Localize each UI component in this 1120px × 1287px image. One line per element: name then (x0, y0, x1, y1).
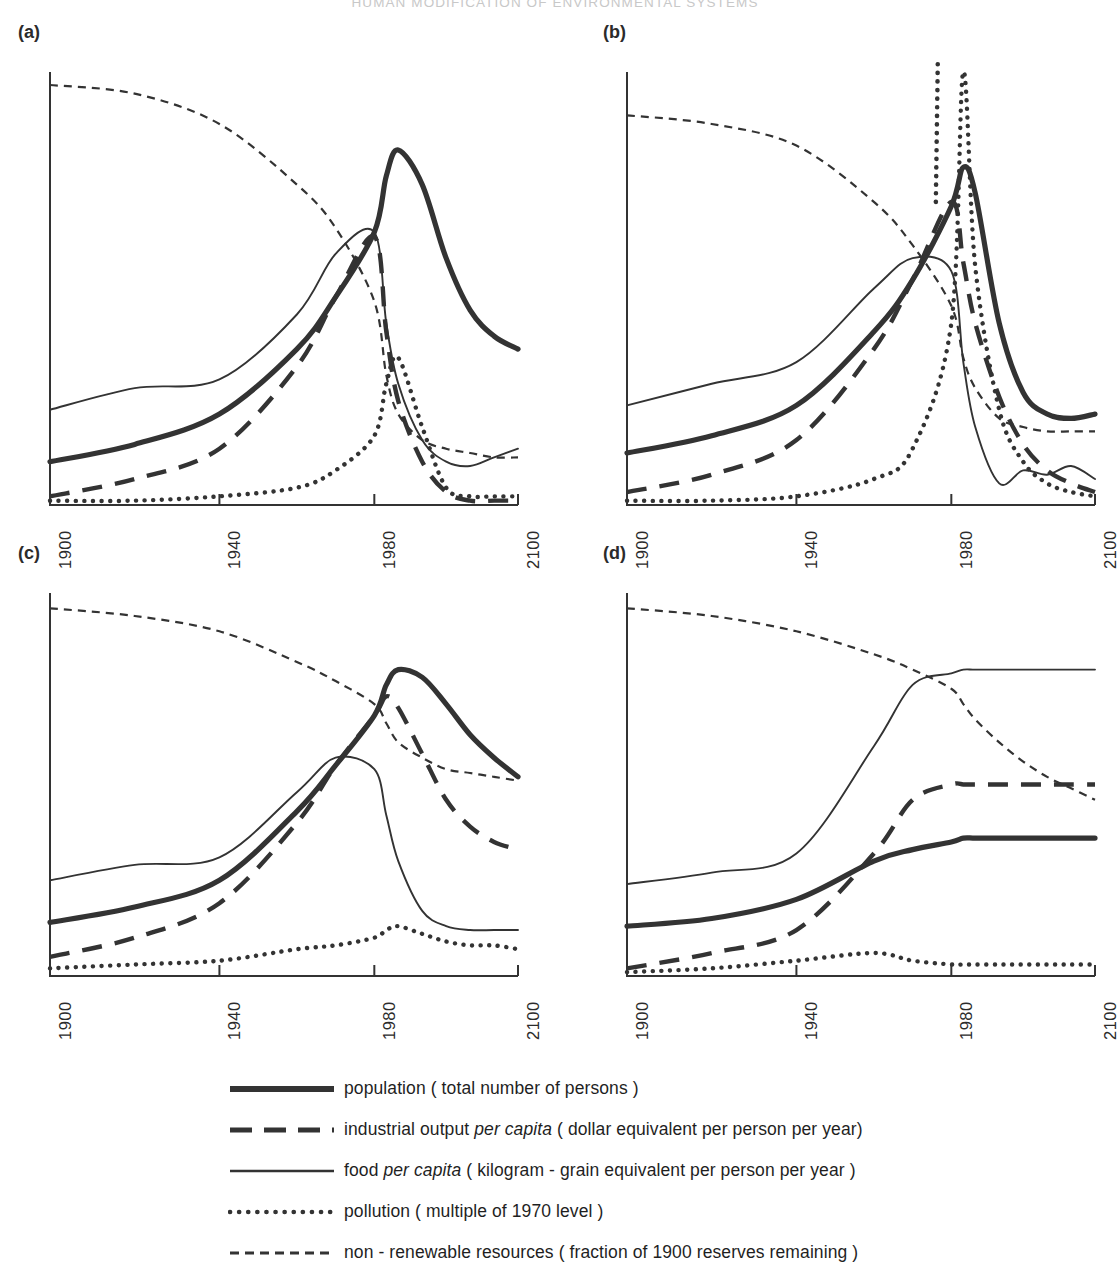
axis-lines (50, 593, 518, 976)
axis-lines (50, 72, 518, 505)
legend-label-industrial-output: industrial output per capita ( dollar eq… (344, 1119, 863, 1140)
series-line-population (627, 167, 1095, 453)
series-line-population (50, 669, 518, 922)
plot-area-b (555, 50, 1110, 550)
legend-item-pollution: pollution ( multiple of 1970 level ) (0, 1191, 1110, 1232)
series-line-food-per-capita (50, 756, 518, 930)
panel-label-b: (b) (603, 22, 626, 43)
chart-panel-b: (b) 1900194019802100 (555, 22, 1110, 547)
legend-swatch-long-dash (228, 1122, 336, 1138)
legend-item-resources: non - renewable resources ( fraction of … (0, 1232, 1110, 1273)
legend-item-industrial-output: industrial output per capita ( dollar eq… (0, 1109, 1110, 1150)
series-line-non-renewable-resources (627, 115, 1095, 431)
legend-swatch-dotted (228, 1204, 336, 1220)
x-tick-label-2100: 2100 (1101, 1001, 1120, 1040)
series-line-pollution-spike (936, 58, 938, 202)
series-line-population (627, 838, 1095, 926)
x-tick-label-1980: 1980 (957, 1001, 976, 1040)
legend-swatch-short-dash (228, 1245, 336, 1261)
chart-panel-a: (a) 1900194019802100 (0, 22, 555, 547)
legend-item-food: food per capita ( kilogram - grain equiv… (0, 1150, 1110, 1191)
series-line-population (50, 150, 518, 462)
legend-label-resources: non - renewable resources ( fraction of … (344, 1242, 858, 1263)
running-head: HUMAN MODIFICATION OF ENVIRONMENTAL SYST… (0, 0, 1110, 7)
legend-label-pollution: pollution ( multiple of 1970 level ) (344, 1201, 603, 1222)
chart-panel-c: (c) 1900194019802100 (0, 543, 555, 1013)
plot-area-c (0, 571, 555, 1021)
panel-label-d: (d) (603, 543, 626, 564)
legend: population ( total number of persons ) i… (0, 1068, 1110, 1273)
series-line-pollution (627, 72, 1095, 501)
panel-label-a: (a) (18, 22, 40, 43)
series-line-food-per-capita (627, 669, 1095, 884)
legend-swatch-thin-solid (228, 1163, 336, 1179)
x-tick-label-2100: 2100 (524, 1001, 543, 1040)
legend-label-food: food per capita ( kilogram - grain equiv… (344, 1160, 856, 1181)
x-tick-label-1900: 1900 (633, 1001, 652, 1040)
series-line-pollution (50, 926, 518, 968)
series-line-non-renewable-resources (50, 608, 518, 780)
panel-label-c: (c) (18, 543, 40, 564)
x-tick-label-1940: 1940 (802, 1001, 821, 1040)
legend-swatch-thick-solid (228, 1081, 336, 1097)
legend-label-population: population ( total number of persons ) (344, 1078, 639, 1099)
series-line-non-renewable-resources (627, 608, 1095, 800)
series-line-non-renewable-resources (50, 85, 518, 458)
x-tick-label-1980: 1980 (380, 1001, 399, 1040)
series-line-food-per-capita (627, 256, 1095, 485)
series-line-pollution (50, 356, 518, 501)
x-tick-label-1900: 1900 (56, 1001, 75, 1040)
plot-area-d (555, 571, 1110, 1021)
chart-panel-d: (d) 1900194019802100 (555, 543, 1110, 1013)
x-tick-label-1940: 1940 (225, 1001, 244, 1040)
plot-area-a (0, 50, 555, 550)
legend-item-population: population ( total number of persons ) (0, 1068, 1110, 1109)
